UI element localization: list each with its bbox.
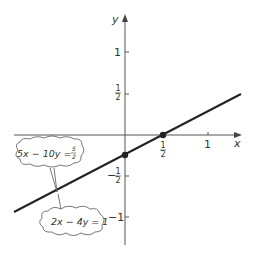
y-tick-neg-half-num: 1	[116, 167, 121, 176]
y-tick-neg-one-label: −1	[108, 211, 124, 224]
callout-top: 5x − 10y = 5 2	[16, 136, 84, 192]
chart: x y 1 2 1 1 1 2 − 1 2 −1 5x − 10y = 5 2 …	[0, 0, 256, 258]
point-x-intercept	[160, 132, 166, 138]
callout-top-pointer	[50, 168, 57, 192]
y-tick-one-label: 1	[114, 46, 121, 59]
callout-top-frac-num: 5	[72, 145, 76, 152]
x-tick-half-den: 2	[161, 150, 166, 159]
callout-top-frac-den: 2	[72, 153, 76, 160]
callout-bottom: 2x − 4y = 1	[40, 194, 109, 236]
y-axis-label: y	[111, 13, 119, 26]
y-tick-half-num: 1	[116, 84, 121, 93]
y-tick-neg-half-den: 2	[116, 176, 121, 185]
x-tick-one-label: 1	[204, 138, 211, 151]
x-tick-half-num: 1	[161, 141, 166, 150]
callout-top-text: 5x − 10y =	[17, 148, 71, 159]
y-tick-half-den: 2	[116, 93, 121, 102]
point-y-intercept	[122, 152, 128, 158]
x-axis-label: x	[233, 137, 241, 150]
callout-bottom-text: 2x − 4y = 1	[51, 216, 108, 227]
y-axis-arrow-icon	[122, 14, 128, 22]
